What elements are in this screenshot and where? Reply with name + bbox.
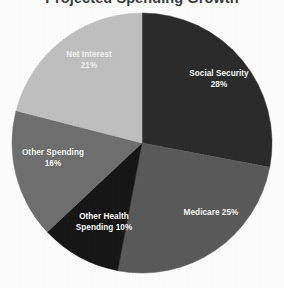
slice-label-other-health-spending: Other Health Spending 10% (54, 212, 154, 233)
pie-chart-canvas (0, 0, 284, 288)
slice-label-medicare: Medicare 25% (160, 208, 262, 219)
pie-svg (0, 0, 284, 288)
pie-chart-figure: Projected Spending Growth Social Securit… (0, 0, 284, 288)
slice-label-social-security: Social Security 28% (168, 69, 270, 90)
pie-slice-social-security (142, 13, 272, 167)
slice-label-other-spending: Other Spending 16% (4, 148, 102, 169)
slice-label-net-interest: Net Interest 21% (42, 50, 136, 71)
